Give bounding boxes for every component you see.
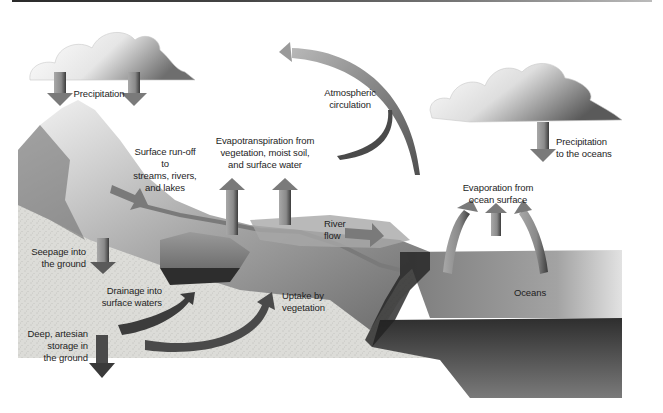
label-river-flow: River flow: [324, 218, 354, 242]
label-precipitation-oceans: Precipitation to the oceans: [556, 136, 626, 160]
cloud-right: [430, 63, 622, 122]
ocean-surface: [406, 250, 622, 318]
label-drainage: Drainage into surface waters: [90, 285, 162, 309]
evaporation-arrow-middle: [485, 203, 507, 236]
label-surface-runoff: Surface run-off to streams, rivers, and …: [130, 146, 200, 194]
label-seepage: Seepage into the ground: [20, 246, 86, 270]
label-deep-storage: Deep, artesian storage in the ground: [16, 328, 88, 364]
precipitation-ocean-arrow: [530, 122, 556, 162]
label-evapotranspiration: Evapotranspiration from vegetation, mois…: [210, 135, 320, 171]
water-cycle-diagram: Precipitation Surface run-off to streams…: [0, 0, 663, 413]
label-evaporation-ocean: Evaporation from ocean surface: [458, 182, 538, 206]
label-oceans: Oceans: [500, 287, 560, 299]
diagram-artwork: [0, 0, 663, 413]
label-atmospheric-circulation: Atmospheric circulation: [318, 87, 382, 111]
label-precipitation: Precipitation: [73, 88, 125, 100]
label-uptake: Uptake by vegetation: [282, 290, 342, 314]
